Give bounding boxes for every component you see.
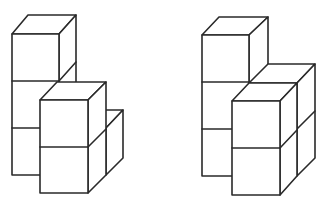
left-front-column	[40, 82, 106, 193]
cube-figures-canvas	[0, 0, 317, 209]
right-front-column	[232, 83, 297, 195]
left-cube-structure	[12, 15, 123, 193]
right-cube-structure	[202, 17, 315, 195]
